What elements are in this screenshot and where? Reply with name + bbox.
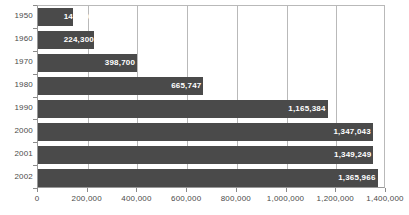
bar-value-label: 1,165,384 bbox=[272, 100, 326, 118]
y-axis-tick-label-2000: 2000 bbox=[14, 122, 33, 140]
y-axis-tick bbox=[33, 28, 37, 29]
y-axis-tick bbox=[33, 51, 37, 52]
y-axis-tick bbox=[33, 5, 37, 6]
x-axis-tick bbox=[37, 188, 38, 192]
x-axis-tick-label-1: 200,000 bbox=[72, 194, 102, 203]
bar-row: 141,600 bbox=[38, 8, 386, 26]
y-axis-tick-label-1990: 1990 bbox=[14, 99, 33, 117]
plot-area: 141,600224,300398,700665,7471,165,3841,3… bbox=[37, 5, 385, 188]
bar-value-label: 224,300 bbox=[40, 31, 94, 49]
y-axis-tick bbox=[33, 97, 37, 98]
bar-row: 1,165,384 bbox=[38, 100, 386, 118]
y-axis-labels: 19501960197019801990200020012002 bbox=[0, 5, 33, 188]
bar-row: 224,300 bbox=[38, 31, 386, 49]
x-axis-tick bbox=[87, 188, 88, 192]
y-axis-tick bbox=[33, 165, 37, 166]
x-axis-tick-label-3: 600,000 bbox=[171, 194, 201, 203]
x-axis-tick-label-0: 0 bbox=[35, 194, 40, 203]
x-axis-tick bbox=[385, 188, 386, 192]
y-axis-tick-label-1950: 1950 bbox=[14, 7, 33, 25]
bar-value-label: 1,349,249 bbox=[317, 146, 371, 164]
y-axis-tick bbox=[33, 74, 37, 75]
x-axis-tick-label-2: 400,000 bbox=[121, 194, 151, 203]
y-axis-tick-label-2001: 2001 bbox=[14, 145, 33, 163]
bar-row: 1,347,043 bbox=[38, 123, 386, 141]
bar-row: 665,747 bbox=[38, 77, 386, 95]
x-axis-tick bbox=[136, 188, 137, 192]
bar-value-label: 398,700 bbox=[81, 54, 135, 72]
x-axis-tick bbox=[186, 188, 187, 192]
y-axis-tick-label-1960: 1960 bbox=[14, 30, 33, 48]
bar-value-label: 1,347,043 bbox=[317, 123, 371, 141]
y-axis-tick bbox=[33, 188, 37, 189]
x-axis-tick bbox=[335, 188, 336, 192]
x-axis-tick-label-4: 800,000 bbox=[221, 194, 251, 203]
y-axis-tick bbox=[33, 142, 37, 143]
bar-value-label: 1,365,966 bbox=[322, 169, 376, 187]
bar-row: 1,349,249 bbox=[38, 146, 386, 164]
bar-chart: 19501960197019801990200020012002 141,600… bbox=[0, 0, 409, 215]
bar-value-label: 665,747 bbox=[147, 77, 201, 95]
bar-value-label: 141,600 bbox=[40, 8, 94, 26]
y-axis-tick-label-2002: 2002 bbox=[14, 168, 33, 186]
x-axis-tick bbox=[286, 188, 287, 192]
x-axis-tick-label-5: 1,000,000 bbox=[267, 194, 304, 203]
x-axis-tick bbox=[236, 188, 237, 192]
bar-row: 1,365,966 bbox=[38, 169, 386, 187]
bars-layer: 141,600224,300398,700665,7471,165,3841,3… bbox=[38, 6, 384, 187]
bar-row: 398,700 bbox=[38, 54, 386, 72]
x-axis-tick-label-6: 1,200,000 bbox=[317, 194, 354, 203]
y-axis-tick bbox=[33, 119, 37, 120]
x-axis-tick-label-7: 1,400,000 bbox=[366, 194, 403, 203]
y-axis-tick-label-1980: 1980 bbox=[14, 76, 33, 94]
y-axis-tick-label-1970: 1970 bbox=[14, 53, 33, 71]
